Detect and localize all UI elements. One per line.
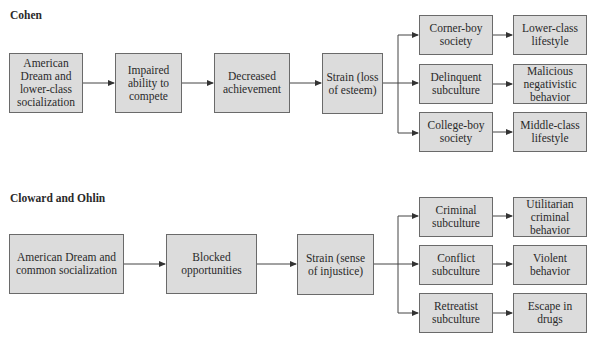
node-malicious-negativistic-behavior: Malicious negativistic behavior — [513, 64, 587, 104]
node-strain-sense-of-injustice: Strain (sense of injustice) — [297, 234, 374, 295]
node-violent-behavior: Violent behavior — [513, 245, 587, 285]
node-college-boy-society: College-boy society — [419, 112, 493, 152]
node-criminal-subculture: Criminal subculture — [419, 197, 493, 237]
node-lower-class-lifestyle: Lower-class lifestyle — [513, 15, 587, 55]
node-retreatist-subculture: Retreatist subculture — [419, 293, 493, 333]
node-delinquent-subculture: Delinquent subculture — [419, 64, 493, 104]
node-utilitarian-criminal-behavior: Utilitarian criminal behavior — [513, 197, 587, 237]
node-corner-boy-society: Corner-boy society — [419, 15, 493, 55]
node-conflict-subculture: Conflict subculture — [419, 245, 493, 285]
diagram-title-cloward-ohlin: Cloward and Ohlin — [10, 192, 105, 204]
node-blocked-opportunities: Blocked opportunities — [166, 234, 257, 294]
node-strain-loss-of-esteem: Strain (loss of esteem) — [322, 53, 383, 114]
node-escape-in-drugs: Escape in drugs — [513, 293, 587, 333]
node-impaired-ability: Impaired ability to compete — [115, 53, 182, 113]
node-decreased-achievement: Decreased achievement — [214, 53, 290, 113]
diagram-title-cohen: Cohen — [10, 9, 42, 21]
node-american-dream-common: American Dream and common socialization — [9, 234, 124, 294]
node-american-dream-lower-class: American Dream and lower-class socializa… — [9, 53, 83, 113]
node-middle-class-lifestyle: Middle-class lifestyle — [513, 112, 587, 152]
